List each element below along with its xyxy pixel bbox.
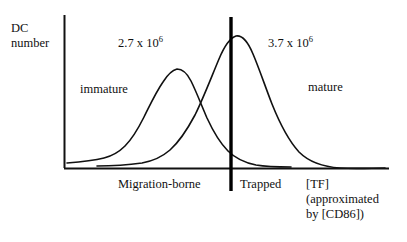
region-label-migration-borne: Migration-borne bbox=[118, 177, 201, 192]
y-axis-label-line2: number bbox=[11, 36, 49, 50]
x-axis-label-line3: by [CD86]) bbox=[306, 207, 364, 221]
mature-count-exponent: 6 bbox=[309, 34, 313, 44]
mature-count-mantissa: 3.7 x 10 bbox=[268, 36, 309, 50]
mature-curve-label: mature bbox=[308, 80, 343, 95]
region-label-trapped: Trapped bbox=[240, 177, 281, 192]
x-axis-label-line1: [TF] bbox=[306, 177, 329, 191]
immature-curve-label: immature bbox=[80, 82, 128, 97]
immature-count-exponent: 6 bbox=[159, 34, 163, 44]
dc-number-distribution-figure: DCnumber 2.7 x 106 3.7 x 106 immature ma… bbox=[0, 0, 407, 242]
mature-count-annotation: 3.7 x 106 bbox=[268, 36, 313, 51]
x-axis-label-line2: (approximated bbox=[306, 192, 379, 206]
y-axis-label-line1: DC bbox=[11, 21, 28, 35]
mature-curve bbox=[97, 36, 385, 169]
immature-count-mantissa: 2.7 x 10 bbox=[118, 36, 159, 50]
x-axis-label: [TF](approximatedby [CD86]) bbox=[306, 177, 379, 221]
y-axis-label: DCnumber bbox=[11, 21, 49, 51]
immature-count-annotation: 2.7 x 106 bbox=[118, 36, 163, 51]
